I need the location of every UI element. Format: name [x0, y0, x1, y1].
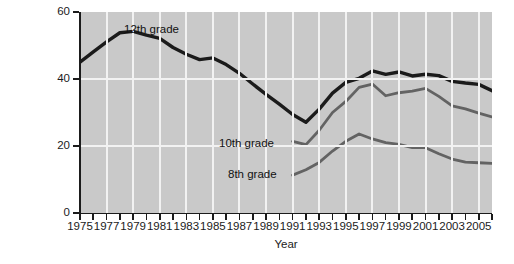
gridline-vertical — [478, 12, 480, 213]
gridline-vertical — [371, 12, 373, 213]
gridline-vertical — [185, 12, 187, 213]
y-axis-tick — [73, 78, 79, 80]
series-line-8th-grade — [293, 134, 492, 175]
x-axis-title: Year — [80, 238, 492, 250]
series-line-12th-grade — [80, 31, 492, 122]
gridline-vertical — [425, 12, 427, 213]
series-line-10th-grade — [293, 84, 492, 145]
gridline-vertical — [238, 12, 240, 213]
x-axis-tick-label: 2005 — [459, 221, 499, 233]
x-axis-tick — [491, 214, 493, 220]
y-axis-tick — [73, 145, 79, 147]
y-axis-tick — [73, 212, 79, 214]
chart-figure: Percentage of students who reported illi… — [0, 0, 514, 264]
gridline-vertical — [159, 12, 161, 213]
gridline-vertical — [132, 12, 134, 213]
series-label-12th-grade: 12th grade — [124, 24, 179, 36]
series-label-8th-grade: 8th grade — [228, 169, 277, 181]
x-axis-line — [79, 213, 492, 215]
gridline-horizontal — [80, 78, 492, 80]
gridline-vertical — [265, 12, 267, 213]
series-canvas — [80, 12, 492, 213]
gridline-horizontal — [80, 145, 492, 147]
plot-area — [80, 12, 492, 213]
gridline-vertical — [292, 12, 294, 213]
y-axis-tick-label: 40 — [28, 73, 70, 85]
gridline-vertical — [345, 12, 347, 213]
series-label-10th-grade: 10th grade — [219, 138, 274, 150]
y-axis-tick — [73, 11, 79, 13]
y-axis-title: Percentage of students who reported illi… — [0, 0, 56, 225]
gridline-vertical — [106, 12, 108, 213]
y-axis-tick-label: 20 — [28, 140, 70, 152]
y-axis-tick-label: 0 — [28, 207, 70, 219]
y-axis-tick-label: 60 — [28, 6, 70, 18]
gridline-vertical — [212, 12, 214, 213]
gridline-vertical — [318, 12, 320, 213]
gridline-vertical — [451, 12, 453, 213]
gridline-vertical — [398, 12, 400, 213]
y-axis-line — [79, 12, 81, 214]
